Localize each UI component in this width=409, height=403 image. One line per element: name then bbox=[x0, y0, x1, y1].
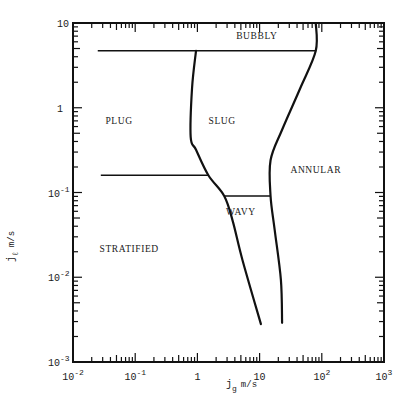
y-tick-label: 10-3 bbox=[48, 354, 70, 369]
x-tick-label: 10-2 bbox=[62, 368, 84, 383]
y-tick-label: 10-2 bbox=[48, 269, 70, 284]
x-tick-label: 102 bbox=[313, 368, 330, 383]
plot-frame bbox=[73, 23, 384, 362]
axis-ticks bbox=[73, 23, 384, 362]
region-label-annular: ANNULAR bbox=[290, 165, 341, 175]
y-axis-title: jℓm/s bbox=[6, 231, 20, 262]
y-tick-labels: 10110-110-210-3 bbox=[48, 19, 70, 369]
regime-boundaries bbox=[98, 23, 317, 324]
x-tick-label: 10-1 bbox=[124, 368, 146, 383]
y-tick-label: 10 bbox=[57, 19, 69, 30]
y-tick-label: 10-1 bbox=[48, 185, 70, 200]
y-tick-label: 1 bbox=[57, 104, 63, 115]
regime-labels: BUBBLYPLUGSLUGANNULARWAVYSTRATIFIED bbox=[100, 31, 342, 254]
x-tick-label: 1 bbox=[194, 372, 200, 383]
x-tick-label: 103 bbox=[376, 368, 393, 383]
flow-regime-chart: BUBBLYPLUGSLUGANNULARWAVYSTRATIFIED 10-2… bbox=[0, 0, 409, 403]
x-axis-title: jgm/s bbox=[226, 379, 257, 393]
region-label-stratified: STRATIFIED bbox=[100, 244, 159, 254]
region-label-plug: PLUG bbox=[105, 116, 132, 126]
boundary-slug-left bbox=[190, 51, 260, 324]
region-label-slug: SLUG bbox=[209, 116, 236, 126]
region-label-bubbly: BUBBLY bbox=[236, 31, 277, 41]
region-label-wavy: WAVY bbox=[226, 207, 256, 217]
